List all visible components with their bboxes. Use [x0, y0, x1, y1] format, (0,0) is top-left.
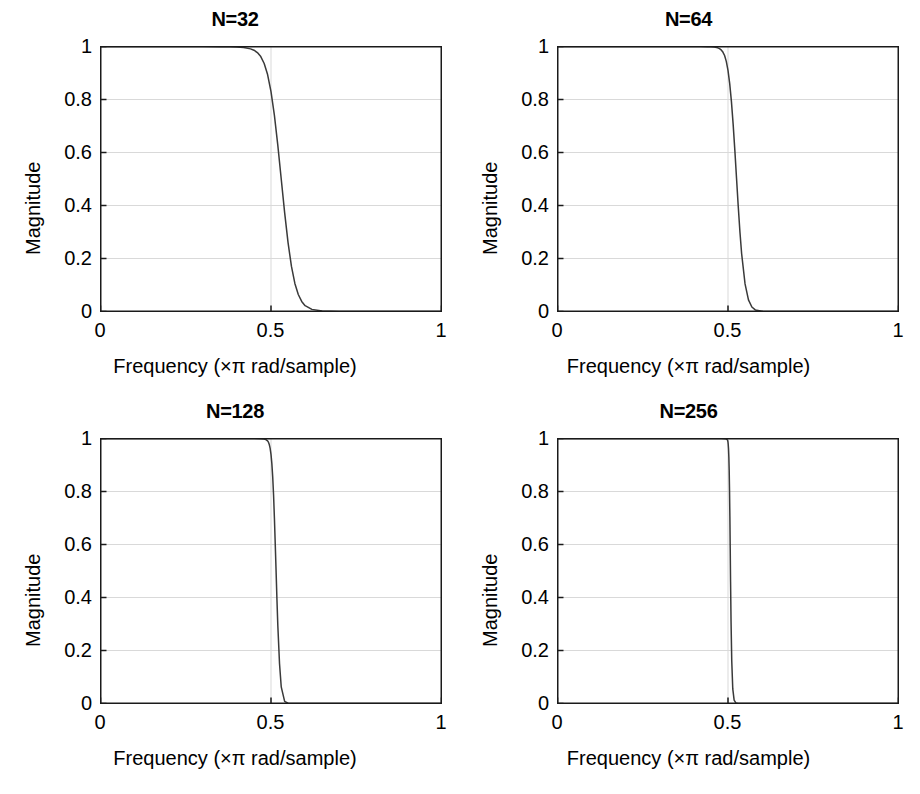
y-tick-label: 0.6	[521, 141, 549, 164]
y-axis-label: Magnitude	[22, 554, 45, 647]
y-tick-label: 0	[81, 692, 92, 715]
panel-title: N=128	[0, 400, 470, 423]
x-tick-label: 0	[94, 319, 105, 342]
panel-n256: N=256 Magnitude Frequency (×π rad/sample…	[457, 392, 920, 789]
y-tick-label: 0.6	[64, 141, 92, 164]
x-axis-label: Frequency (×π rad/sample)	[0, 747, 470, 770]
y-tick-label: 0.4	[521, 194, 549, 217]
x-axis-label: Frequency (×π rad/sample)	[457, 355, 920, 378]
gridlines	[101, 439, 442, 704]
y-tick-label: 0	[81, 300, 92, 323]
plot-area	[557, 46, 898, 311]
panel-title: N=32	[0, 8, 470, 31]
y-tick-label: 1	[81, 427, 92, 450]
x-tick-label: 1	[892, 319, 903, 342]
y-tick-label: 0.4	[64, 586, 92, 609]
y-tick-label: 0.6	[64, 533, 92, 556]
axes	[557, 46, 899, 312]
y-tick-label: 0.8	[64, 480, 92, 503]
panel-title: N=256	[457, 400, 920, 423]
axes	[100, 438, 442, 704]
x-tick-label: 0.5	[257, 319, 285, 342]
y-tick-label: 0.4	[64, 194, 92, 217]
gridlines	[558, 47, 899, 312]
x-tick-label: 0	[551, 319, 562, 342]
x-tick-label: 0	[551, 711, 562, 734]
y-tick-label: 0.4	[521, 586, 549, 609]
panel-title: N=64	[457, 8, 920, 31]
panel-n128: N=128 Magnitude Frequency (×π rad/sample…	[0, 392, 470, 789]
x-axis-label: Frequency (×π rad/sample)	[0, 355, 470, 378]
figure-canvas: N=32 Magnitude Frequency (×π rad/sample)…	[0, 0, 920, 794]
plot-area	[100, 438, 441, 703]
axes	[557, 438, 899, 704]
x-tick-label: 0.5	[714, 319, 742, 342]
y-tick-label: 0.2	[64, 639, 92, 662]
x-axis-label: Frequency (×π rad/sample)	[457, 747, 920, 770]
y-tick-label: 0	[538, 300, 549, 323]
y-tick-label: 1	[538, 35, 549, 58]
y-axis-label: Magnitude	[479, 162, 502, 255]
gridlines	[101, 47, 442, 312]
axes	[100, 46, 442, 312]
plot-area	[100, 46, 441, 311]
y-tick-label: 0.2	[521, 639, 549, 662]
gridlines	[558, 439, 899, 704]
y-tick-label: 0.8	[64, 88, 92, 111]
x-tick-label: 0	[94, 711, 105, 734]
y-tick-label: 0.2	[64, 247, 92, 270]
y-tick-label: 0.8	[521, 480, 549, 503]
y-axis-label: Magnitude	[22, 162, 45, 255]
y-tick-label: 0	[538, 692, 549, 715]
panel-n64: N=64 Magnitude Frequency (×π rad/sample)…	[457, 0, 920, 397]
x-tick-label: 1	[435, 711, 446, 734]
y-tick-label: 0.2	[521, 247, 549, 270]
x-tick-label: 0.5	[714, 711, 742, 734]
y-tick-label: 0.6	[521, 533, 549, 556]
x-tick-label: 1	[892, 711, 903, 734]
x-tick-label: 1	[435, 319, 446, 342]
plot-area	[557, 438, 898, 703]
panel-n32: N=32 Magnitude Frequency (×π rad/sample)…	[0, 0, 470, 397]
y-tick-label: 0.8	[521, 88, 549, 111]
y-tick-label: 1	[81, 35, 92, 58]
y-tick-label: 1	[538, 427, 549, 450]
x-tick-label: 0.5	[257, 711, 285, 734]
y-axis-label: Magnitude	[479, 554, 502, 647]
